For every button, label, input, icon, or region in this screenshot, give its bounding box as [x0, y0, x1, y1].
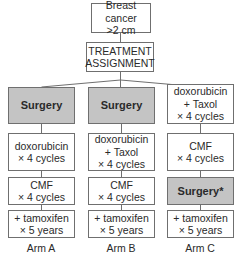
assignment-line1: TREATMENT	[88, 45, 151, 58]
step-text: doxorubicin	[174, 85, 228, 98]
arm-b-step-3: CMF × 4 cycles	[88, 177, 155, 205]
step-text: Surgery	[101, 99, 143, 112]
arm-b-step-4: + tamoxifen × 5 years	[88, 210, 155, 238]
arm-b-label: Arm B	[88, 242, 154, 254]
step-text: CMF	[30, 179, 53, 192]
step-text: + tamoxifen	[94, 212, 149, 225]
arm-c-step-4: + tamoxifen × 5 years	[167, 210, 234, 238]
step-text: × 4 cycles	[98, 158, 145, 171]
diagnosis-line2: >2 cm	[107, 24, 136, 37]
arm-a-step-1: Surgery	[8, 87, 75, 124]
arm-a-step-3: CMF × 4 cycles	[8, 177, 75, 205]
step-text: × 5 years	[100, 224, 143, 237]
step-text: + tamoxifen	[14, 212, 69, 225]
step-text: CMF	[110, 179, 133, 192]
step-text: + Taxol	[105, 146, 138, 159]
arm-c-step-3: Surgery*	[167, 177, 234, 205]
arm-c-step-2: CMF × 4 cycles	[167, 133, 234, 171]
arm-a-label: Arm A	[8, 242, 74, 254]
arm-a-step-2: doxorubicin × 4 cycles	[8, 133, 75, 171]
arm-c-label: Arm C	[167, 242, 233, 254]
step-text: × 5 years	[20, 224, 63, 237]
step-text: + tamoxifen	[173, 212, 228, 225]
step-text: doxorubicin	[95, 133, 149, 146]
step-text: CMF	[189, 140, 212, 153]
arm-b-step-1: Surgery	[88, 87, 155, 124]
arm-a-step-4: + tamoxifen × 5 years	[8, 210, 75, 238]
step-text: Surgery	[21, 99, 63, 112]
assignment-line2: ASSIGNMENT	[85, 57, 154, 70]
diagnosis-box: Breast cancer >2 cm	[91, 3, 151, 33]
step-text: doxorubicin	[15, 140, 69, 153]
step-text: × 5 years	[179, 224, 222, 237]
diagnosis-line1: Breast cancer	[92, 0, 150, 24]
step-text: × 4 cycles	[177, 152, 224, 165]
step-text: × 4 cycles	[18, 191, 65, 204]
step-text: × 4 cycles	[18, 152, 65, 165]
step-text: × 4 cycles	[177, 110, 224, 123]
step-text: Surgery*	[178, 185, 224, 198]
treatment-assignment-box: TREATMENT ASSIGNMENT	[86, 42, 154, 72]
arm-b-step-2: doxorubicin + Taxol × 4 cycles	[88, 133, 155, 171]
arm-c-step-1: doxorubicin + Taxol × 4 cycles	[167, 84, 234, 124]
step-text: × 4 cycles	[98, 191, 145, 204]
step-text: + Taxol	[184, 98, 217, 111]
